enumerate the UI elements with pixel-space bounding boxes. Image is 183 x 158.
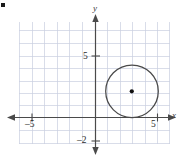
graph-canvas bbox=[0, 0, 183, 158]
y-tick-label-5: 5 bbox=[83, 52, 88, 62]
x-tick-label-minus-5: –5 bbox=[25, 120, 35, 130]
y-axis bbox=[92, 14, 98, 155]
x-tick-label-5: 5 bbox=[151, 120, 156, 130]
y-axis-label: y bbox=[93, 4, 97, 13]
circle-center-point bbox=[130, 89, 134, 93]
coordinate-plane-figure: y x 5 –5 5 –2 bbox=[0, 0, 183, 158]
grid-lines bbox=[19, 22, 170, 144]
x-axis-label: x bbox=[172, 111, 176, 120]
y-tick-label-minus-2: –2 bbox=[77, 136, 87, 146]
